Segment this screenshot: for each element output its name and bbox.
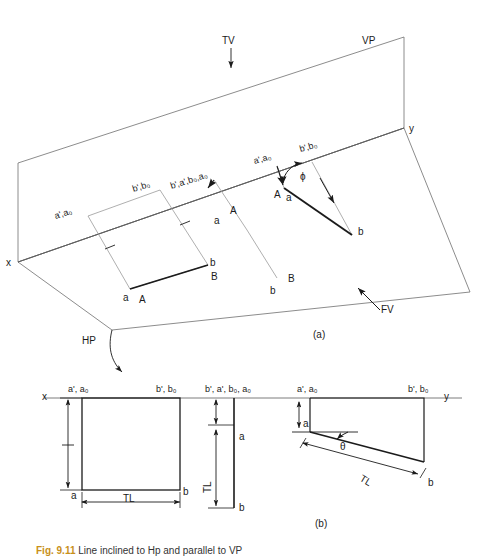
label-v3-point-b: b — [428, 478, 434, 488]
horizontal-plane-hp — [18, 128, 470, 330]
panel-a-pictorial — [18, 37, 470, 372]
label-fv-point-b: b — [358, 227, 364, 237]
label-v3-top-right: b', b₀ — [408, 385, 428, 394]
label-vp: VP — [362, 36, 375, 46]
label-v2-top: b', a', b₀, a₀ — [205, 385, 251, 394]
label-v3-top-left: a', a₀ — [297, 385, 317, 394]
label-mid-line-B: B — [288, 274, 295, 284]
figure-caption: Fig. 9.11 Line inclined to Hp and parall… — [36, 545, 476, 558]
theta-angle-arc — [337, 432, 348, 439]
label-v1-dim-tl: TL — [123, 494, 135, 504]
label-mid-line-A: A — [230, 206, 237, 216]
label-v1-top-right: b', b₀ — [156, 385, 176, 394]
hp-leader — [110, 330, 122, 372]
fv-leader — [358, 288, 380, 310]
label-panel-a: (a) — [313, 330, 325, 340]
label-axis-x-pictorial: x — [6, 258, 11, 268]
label-hp: HP — [82, 336, 96, 346]
label-v2-point-b: b — [239, 503, 245, 513]
caption-text: Line inclined to Hp and parallel to VP — [75, 545, 242, 556]
view1-square — [60, 398, 180, 508]
xy-fold-line — [18, 128, 404, 262]
label-v1-top-left: a', a₀ — [68, 385, 88, 394]
label-tv-point-b: b — [210, 258, 216, 268]
label-mid-point-a: a — [214, 216, 220, 226]
panel-b-orthographic — [44, 398, 462, 508]
label-tv: TV — [222, 36, 235, 46]
fv-bold-line-ab — [284, 188, 352, 235]
caption-label: Fig. 9.11 — [36, 545, 75, 556]
top-view-parallelogram — [88, 190, 208, 289]
label-axis-y-pictorial: y — [409, 124, 414, 134]
label-v3-point-a: a — [303, 419, 309, 429]
label-panel-b-x: x — [42, 392, 47, 402]
label-v2-dim-tl: TL — [203, 481, 213, 493]
label-v3-theta: θ — [340, 442, 346, 452]
figure-root: TV VP HP FV x y a',a₀ b',b₀ a A b B b',a… — [0, 0, 504, 558]
engineering-drawing-svg — [0, 0, 504, 558]
view3-inclined — [292, 398, 426, 478]
label-fv-vertex-a: a — [286, 193, 292, 203]
label-tv-point-a: a — [123, 293, 129, 303]
vertical-plane-vp — [18, 37, 404, 262]
label-fv: FV — [381, 305, 394, 315]
label-tv-edge-A: A — [139, 295, 146, 305]
label-panel-b-y: y — [444, 392, 449, 402]
view3-bold-tl-line — [310, 432, 424, 462]
middle-projector-lines — [208, 180, 277, 278]
tv-bold-edge-ab — [130, 265, 208, 289]
label-v1-bottom-right: b — [183, 487, 189, 497]
label-fv-phi: ϕ — [300, 172, 306, 182]
label-tv-edge-B: B — [211, 272, 218, 282]
label-fv-vertex-A: A — [274, 190, 281, 200]
label-v1-bottom-left: a — [71, 491, 77, 501]
label-v2-point-a: a — [239, 432, 245, 442]
label-panel-b: (b) — [315, 519, 327, 529]
label-mid-point-b: b — [270, 286, 276, 296]
